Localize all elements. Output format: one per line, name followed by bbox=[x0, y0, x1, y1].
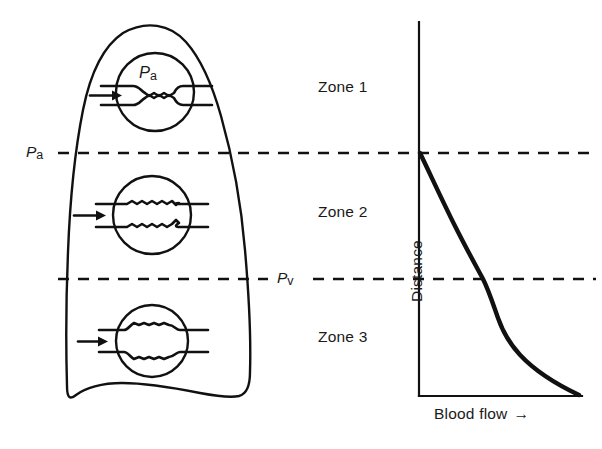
alveolar-pressure-subscript: a bbox=[150, 69, 157, 83]
figure-canvas bbox=[0, 0, 602, 449]
zone-3-capillary-lower-wall bbox=[99, 352, 208, 359]
zone-3-capillary-upper-wall bbox=[99, 323, 208, 330]
zone-3-alveolus-circle bbox=[116, 305, 188, 377]
chart-y-axis-label: Distance bbox=[409, 240, 425, 302]
zone-2-label: Zone 2 bbox=[318, 204, 367, 220]
chart-x-axis-label: Blood flow→ bbox=[434, 406, 529, 422]
arterial-pressure-subscript: a bbox=[36, 148, 43, 162]
zone-3-label: Zone 3 bbox=[318, 329, 367, 345]
zone-3-inflow-arrow bbox=[78, 337, 108, 347]
venous-pressure-subscript: v bbox=[287, 274, 293, 288]
west-zones-figure: Pa Pv Pa Zone 1 Zone 2 Zone 3 Distance B… bbox=[0, 0, 602, 449]
zone-2-capillary-upper-wall bbox=[96, 201, 208, 205]
arterial-pressure-label: Pa bbox=[26, 144, 43, 162]
zone-2-alveolus-circle bbox=[113, 176, 191, 254]
zone-3-capillary-group bbox=[78, 305, 208, 377]
venous-pressure-label: Pv bbox=[277, 270, 294, 288]
alveolar-pressure-label: Pa bbox=[139, 64, 157, 83]
zone-2-capillary-group bbox=[74, 176, 208, 254]
chart-x-axis-label-text: Blood flow bbox=[434, 405, 508, 422]
chart-x-axis-arrow-icon: → bbox=[508, 405, 530, 422]
blood-flow-curve bbox=[420, 153, 579, 395]
chart-axes-group bbox=[419, 22, 582, 396]
zone-2-inflow-arrow bbox=[74, 211, 106, 221]
zone-1-label: Zone 1 bbox=[318, 79, 367, 95]
